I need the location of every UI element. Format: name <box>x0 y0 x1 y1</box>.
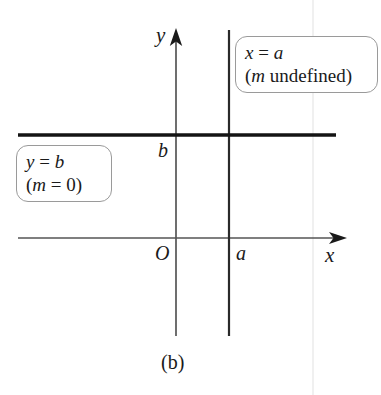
slope-note-variable: m <box>251 65 265 86</box>
slope-note-text: undefined) <box>265 65 352 86</box>
slope-zero-text: = 0) <box>46 174 82 195</box>
x-axis-label: x <box>325 245 334 266</box>
origin-label: O <box>155 243 169 263</box>
x-equals-a-equation: x = a <box>245 41 368 64</box>
y-equals-b-equation: y = b <box>26 150 102 173</box>
slope-zero-variable: m <box>32 174 46 195</box>
x-equals-a-relation: = <box>253 42 273 63</box>
y-equals-b-slope-note: (m = 0) <box>26 173 102 196</box>
figure-caption: (b) <box>161 352 184 372</box>
y-equals-b-value: b <box>55 151 65 172</box>
x-intercept-label-a: a <box>236 243 246 263</box>
x-equals-a-callout: x = a (m undefined) <box>235 36 378 93</box>
x-equals-a-slope-note: (m undefined) <box>245 64 368 87</box>
figure-panel-b: y x O b a x = a (m undefined) y = b (m =… <box>0 0 381 395</box>
x-equals-a-value: a <box>274 42 284 63</box>
y-equals-b-callout: y = b (m = 0) <box>16 145 112 202</box>
y-axis-label: y <box>156 25 165 46</box>
y-intercept-label-b: b <box>158 140 168 160</box>
y-equals-b-relation: = <box>34 151 54 172</box>
